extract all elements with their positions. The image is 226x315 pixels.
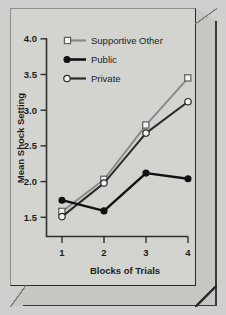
- legend-label: Supportive Other: [91, 35, 163, 46]
- legend-marker-open-circle-icon: [64, 75, 70, 81]
- data-point-marker: [101, 180, 107, 186]
- x-axis-tick-labels: 1 2 3 4: [59, 247, 191, 258]
- y-tick-label: 4.0: [24, 33, 37, 44]
- data-point-marker: [143, 130, 149, 136]
- legend-label: Private: [91, 73, 121, 84]
- legend-item-private: Private: [64, 73, 121, 84]
- frame-corner-bottom-left: [10, 285, 26, 307]
- x-tick-label: 1: [59, 247, 65, 258]
- x-tick-label: 4: [185, 247, 191, 258]
- frame-bevel-bottom: [10, 286, 216, 306]
- y-tick-label: 1.5: [24, 212, 38, 223]
- plot-area: 4.0 3.5 3.0 2.5 2.0 1.5 1 2 3 4: [10, 8, 196, 286]
- data-point-marker: [143, 122, 149, 128]
- chart-legend: Supportive Other Public Private: [64, 35, 163, 84]
- frame-corner-top-right: [195, 8, 217, 24]
- legend-label: Public: [91, 54, 117, 65]
- series-public: [59, 170, 191, 214]
- y-tick-label: 3.5: [24, 69, 38, 80]
- x-axis-ticks: [62, 237, 188, 244]
- legend-marker-open-square-icon: [64, 37, 70, 43]
- figure-stage: 4.0 3.5 3.0 2.5 2.0 1.5 1 2 3 4: [0, 0, 226, 315]
- line-chart: 4.0 3.5 3.0 2.5 2.0 1.5 1 2 3 4: [10, 8, 196, 286]
- data-point-marker: [143, 170, 149, 176]
- y-axis-title: Mean Shock Setting: [15, 93, 26, 183]
- frame-edge-right: [215, 21, 217, 306]
- series-private: [59, 99, 191, 220]
- y-axis-ticks: [41, 39, 47, 218]
- legend-marker-filled-circle-icon: [64, 57, 70, 63]
- frame-corner-bottom-right: [195, 285, 217, 307]
- data-point-marker: [185, 75, 191, 81]
- data-point-marker: [101, 208, 107, 214]
- frame-bevel-right: [196, 8, 216, 306]
- legend-item-public: Public: [64, 54, 117, 65]
- x-tick-label: 3: [143, 247, 148, 258]
- x-tick-label: 2: [101, 247, 106, 258]
- data-point-marker: [59, 213, 65, 219]
- x-axis-title: Blocks of Trials: [90, 265, 160, 276]
- data-point-marker: [59, 197, 65, 203]
- data-point-marker: [185, 99, 191, 105]
- frame-edge-bottom: [23, 305, 216, 307]
- data-point-marker: [185, 176, 191, 182]
- legend-item-supportive-other: Supportive Other: [64, 35, 162, 46]
